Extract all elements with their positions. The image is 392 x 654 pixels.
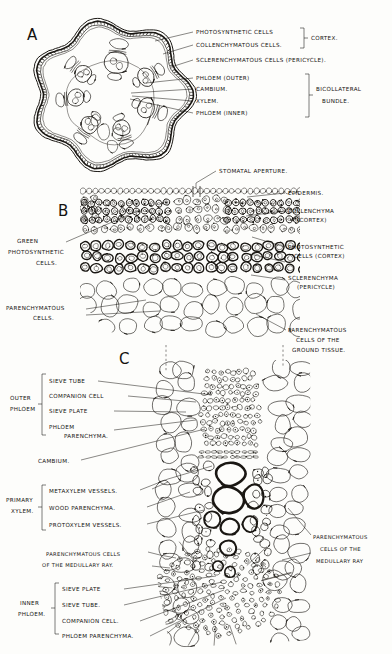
companion-cell-nucleus bbox=[237, 392, 238, 393]
collenchyma-thickening bbox=[116, 203, 117, 204]
parenchyma-nucleus bbox=[199, 507, 200, 508]
parenchyma-nucleus bbox=[199, 527, 200, 528]
collenchyma-thickening bbox=[157, 204, 158, 205]
label-collenchyma-line2: (CORTEX) bbox=[297, 217, 327, 223]
collenchyma-thickening bbox=[158, 213, 160, 215]
companion-cell-nucleus bbox=[212, 386, 213, 387]
collenchyma-thickening bbox=[100, 207, 102, 209]
sclerenchyma-hatch bbox=[100, 166, 101, 169]
sieve-element-dot bbox=[229, 549, 230, 550]
parenchyma-nucleus bbox=[210, 540, 211, 541]
collenchyma-thickening bbox=[235, 201, 237, 203]
label-inner-phloem-line1: INNER bbox=[20, 600, 39, 606]
label-stomatal-aperture: STOMATAL APERTURE. bbox=[219, 168, 288, 174]
companion-cell-nucleus bbox=[247, 430, 248, 431]
companion-cell-nucleus bbox=[247, 408, 249, 410]
collenchyma-thickening bbox=[270, 203, 271, 204]
collenchyma-thickening bbox=[111, 213, 112, 214]
companion-cell-nucleus bbox=[215, 399, 217, 401]
sieve-element-dot bbox=[192, 576, 193, 577]
sieve-element-dot bbox=[251, 572, 252, 573]
collenchyma-thickening bbox=[144, 203, 146, 205]
companion-cell-nucleus bbox=[202, 422, 203, 423]
parenchyma-nucleus bbox=[207, 495, 208, 496]
collenchyma-thickening bbox=[135, 203, 137, 205]
companion-cell-nucleus bbox=[232, 414, 233, 415]
collenchyma-thickening bbox=[280, 204, 282, 206]
collenchyma-thickening bbox=[120, 215, 122, 217]
companion-cell-nucleus bbox=[222, 407, 223, 408]
companion-cell-nucleus bbox=[205, 435, 207, 437]
collenchyma-thickening bbox=[130, 216, 132, 218]
companion-cell-nucleus bbox=[256, 386, 257, 387]
label-sclerenchymatous-cells: SCLERENCHYMATOUS CELLS (PERICYCLE). bbox=[196, 57, 326, 63]
companion-cell-nucleus bbox=[225, 442, 227, 444]
label-medullary-ray-right-line2: CELLS OF THE bbox=[320, 546, 361, 552]
collenchyma-thickening bbox=[231, 210, 233, 212]
label-companion-cell-inner: COMPANION CELL. bbox=[62, 618, 119, 624]
parenchyma-nucleus bbox=[254, 553, 256, 555]
companion-cell-nucleus bbox=[235, 429, 236, 430]
companion-cell-nucleus bbox=[253, 422, 254, 423]
collenchyma-thickening bbox=[242, 220, 244, 222]
collenchyma-thickening bbox=[150, 212, 151, 213]
sieve-element-dot bbox=[166, 571, 167, 572]
sieve-element-dot bbox=[204, 557, 205, 558]
sieve-element-dot bbox=[210, 615, 211, 616]
collenchyma-thickening bbox=[144, 220, 145, 221]
companion-cell-nucleus bbox=[227, 422, 228, 423]
parenchyma-nucleus bbox=[257, 471, 258, 472]
collenchyma-thickening bbox=[103, 216, 104, 217]
label-medullary-ray-right-line1: PARENCHYMATOUS bbox=[313, 534, 368, 540]
sieve-element-dot bbox=[238, 611, 239, 612]
collenchyma-thickening bbox=[89, 220, 91, 222]
parenchyma-nucleus bbox=[256, 565, 258, 567]
sieve-element-dot bbox=[195, 624, 197, 626]
label-parenchymatous-cells-line2: CELLS. bbox=[33, 315, 54, 321]
companion-cell-nucleus bbox=[210, 392, 212, 394]
sieve-element-dot bbox=[260, 590, 261, 591]
sieve-element-dot bbox=[166, 597, 167, 598]
collenchyma-thickening bbox=[236, 221, 238, 223]
sclerenchyma-hatch bbox=[185, 107, 189, 108]
collenchyma-thickening bbox=[97, 221, 99, 223]
companion-cell-nucleus bbox=[253, 430, 254, 431]
collenchyma-thickening bbox=[150, 218, 152, 220]
companion-cell-nucleus bbox=[221, 429, 222, 430]
companion-cell-nucleus bbox=[221, 372, 222, 373]
sieve-element-dot bbox=[225, 555, 226, 556]
label-outer-phloem-line1: OUTER bbox=[10, 395, 31, 401]
collenchyma-thickening bbox=[259, 217, 261, 219]
sieve-element-dot bbox=[243, 600, 244, 601]
sieve-element-dot bbox=[183, 586, 184, 587]
label-xylem: XYLEM. bbox=[196, 98, 219, 104]
collenchyma-thickening bbox=[265, 208, 267, 210]
companion-cell-nucleus bbox=[236, 442, 238, 444]
companion-cell-nucleus bbox=[249, 387, 250, 388]
collenchyma-thickening bbox=[281, 219, 283, 221]
collenchyma-thickening bbox=[150, 205, 152, 207]
label-bicollateral-bundle-line1: BICOLLATERAL bbox=[316, 86, 362, 92]
sieve-element-dot bbox=[205, 627, 207, 629]
parenchyma-nucleus bbox=[205, 531, 206, 532]
sieve-element-dot bbox=[262, 563, 264, 565]
collenchyma-thickening bbox=[138, 217, 140, 219]
label-phloem-parenchyma-inner: PHLOEM PARENCHYMA. bbox=[62, 633, 134, 639]
label-metaxylem-vessels: METAXYLEM VESSELS. bbox=[49, 488, 117, 494]
collenchyma-thickening bbox=[146, 210, 148, 212]
label-cambium: CAMBIUM. bbox=[196, 86, 228, 92]
label-inner-phloem-line2: PHLOEM. bbox=[18, 611, 46, 617]
collenchyma-thickening bbox=[247, 200, 248, 201]
sieve-element-dot bbox=[226, 607, 228, 609]
companion-cell-nucleus bbox=[214, 377, 215, 378]
sieve-element-dot bbox=[279, 591, 280, 592]
parenchyma-nucleus bbox=[266, 515, 267, 516]
parenchyma-nucleus bbox=[253, 515, 254, 516]
label-green-photosynthetic-line2: PHOTOSYNTHETIC bbox=[8, 249, 64, 255]
panel-c-letter: C bbox=[119, 350, 129, 368]
sieve-element-dot bbox=[221, 597, 222, 598]
companion-cell-nucleus bbox=[226, 414, 227, 415]
collenchyma-thickening bbox=[100, 204, 101, 205]
collenchyma-thickening bbox=[290, 219, 292, 221]
collenchyma-thickening bbox=[105, 210, 106, 211]
